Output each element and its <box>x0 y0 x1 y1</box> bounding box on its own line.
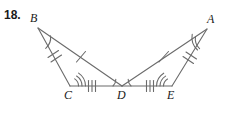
segment-AE <box>172 29 207 86</box>
vertex-label-B: B <box>30 12 37 24</box>
angle-mark-B <box>46 36 51 49</box>
segment-BC <box>38 28 70 86</box>
vertex-label-E: E <box>167 89 174 101</box>
vertex-label-A: A <box>207 13 214 25</box>
tick-marks-BC <box>48 51 62 63</box>
angle-mark-C <box>75 73 86 86</box>
vertex-label-D: D <box>117 89 126 101</box>
vertex-label-C: C <box>64 89 72 101</box>
tick-marks-AD <box>159 52 169 63</box>
angle-mark-E <box>157 73 168 86</box>
geometry-figure: 18. <box>0 0 230 117</box>
